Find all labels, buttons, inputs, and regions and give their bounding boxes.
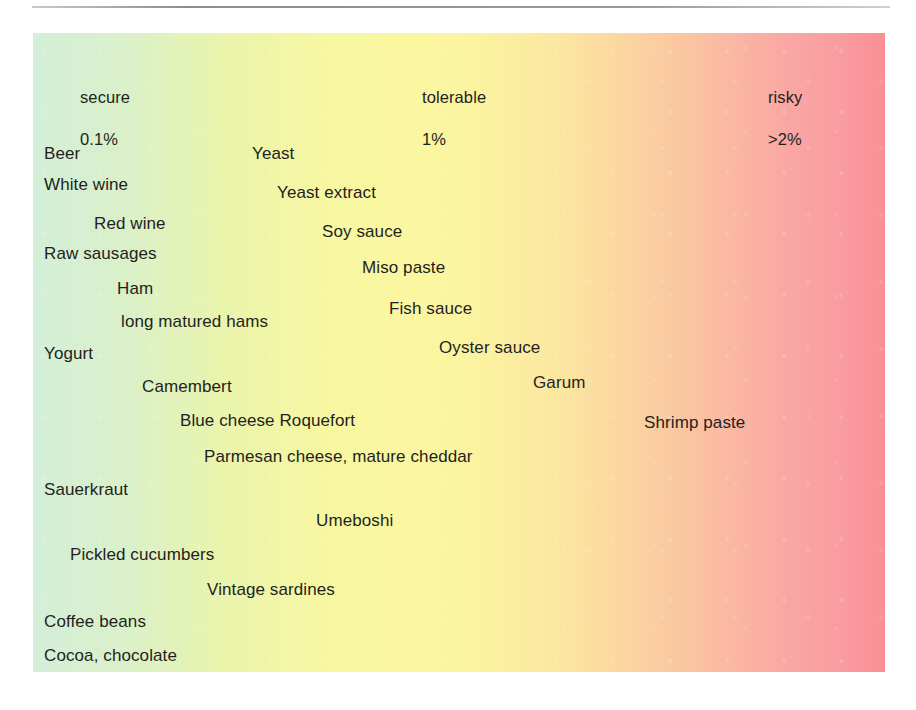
zone-label-tolerable: tolerable — [422, 89, 486, 106]
zone-value-tolerable: 1% — [422, 131, 446, 148]
food-item-cocoa-chocolate: Cocoa, chocolate — [44, 647, 177, 664]
food-item-long-matured-hams: long matured hams — [121, 313, 268, 330]
food-item-shrimp-paste: Shrimp paste — [644, 414, 745, 431]
food-item-vintage-sardines: Vintage sardines — [207, 581, 335, 598]
food-item-red-wine: Red wine — [94, 215, 166, 232]
food-item-fish-sauce: Fish sauce — [389, 300, 472, 317]
food-item-blue-cheese-roquefort: Blue cheese Roquefort — [180, 412, 355, 429]
food-item-parmesan-mature-cheddar: Parmesan cheese, mature cheddar — [204, 448, 473, 465]
zone-label-secure: secure — [80, 89, 130, 106]
food-item-white-wine: White wine — [44, 176, 128, 193]
top-divider-rule — [32, 6, 890, 8]
food-item-sauerkraut: Sauerkraut — [44, 481, 128, 498]
zone-value-risky: >2% — [768, 131, 802, 148]
zone-label-risky: risky — [768, 89, 802, 106]
food-item-coffee-beans: Coffee beans — [44, 613, 146, 630]
food-item-umeboshi: Umeboshi — [316, 512, 393, 529]
food-item-soy-sauce: Soy sauce — [322, 223, 402, 240]
food-item-pickled-cucumbers: Pickled cucumbers — [70, 546, 214, 563]
histamine-risk-scale-panel: secure 0.1% tolerable 1% risky >2% Beer … — [33, 33, 885, 672]
food-item-beer: Beer — [44, 145, 80, 162]
food-item-garum: Garum — [533, 374, 585, 391]
zone-value-secure: 0.1% — [80, 131, 118, 148]
food-item-camembert: Camembert — [142, 378, 232, 395]
food-item-oyster-sauce: Oyster sauce — [439, 339, 540, 356]
food-item-raw-sausages: Raw sausages — [44, 245, 157, 262]
food-item-ham: Ham — [117, 280, 153, 297]
food-item-yeast: Yeast — [252, 145, 294, 162]
food-item-yogurt: Yogurt — [44, 345, 93, 362]
food-item-yeast-extract: Yeast extract — [277, 184, 376, 201]
food-item-miso-paste: Miso paste — [362, 259, 445, 276]
